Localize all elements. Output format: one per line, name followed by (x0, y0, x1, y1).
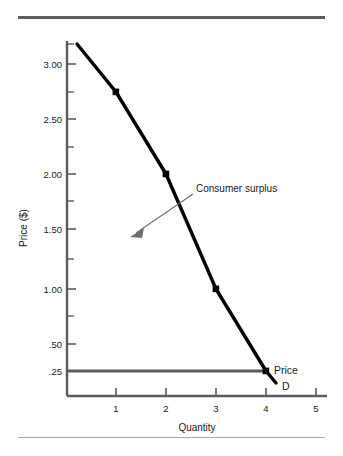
x-tick-label-2: 2 (163, 403, 168, 414)
y-tick-label-0.50: .50 (49, 339, 62, 350)
y-axis-tick-labels: 3.00 2.50 2.00 1.50 1.00 .50 .25 (44, 59, 63, 377)
x-axis-title: Quantity (178, 422, 215, 433)
y-tick-label-0.25: .25 (49, 366, 62, 377)
y-axis-title: Price ($) (18, 209, 29, 247)
figure-container: 3.00 2.50 2.00 1.50 1.00 .50 .25 Price (… (0, 0, 343, 456)
y-tick-label-1.00: 1.00 (44, 284, 63, 295)
data-point-q4 (263, 368, 270, 375)
data-point-q2 (163, 171, 170, 178)
y-axis-major-ticks (67, 64, 76, 371)
demand-curve-label: D (282, 380, 290, 392)
x-tick-label-4: 4 (263, 403, 268, 414)
y-tick-label-3.00: 3.00 (44, 59, 63, 70)
y-tick-label-1.50: 1.50 (44, 224, 63, 235)
demand-curve (77, 44, 276, 383)
x-tick-label-5: 5 (313, 403, 318, 414)
price-line-label: Price (274, 364, 298, 376)
x-tick-label-1: 1 (113, 403, 118, 414)
x-axis-tick-labels: 1 2 3 4 5 (113, 403, 318, 414)
consumer-surplus-annotation: Consumer surplus (130, 183, 277, 238)
consumer-surplus-arrowhead (130, 228, 144, 238)
data-point-q3 (213, 286, 220, 293)
y-tick-label-2.50: 2.50 (44, 114, 63, 125)
data-point-q1 (113, 89, 120, 96)
consumer-surplus-chart: 3.00 2.50 2.00 1.50 1.00 .50 .25 Price (… (0, 0, 343, 456)
x-tick-label-3: 3 (213, 403, 218, 414)
consumer-surplus-label: Consumer surplus (196, 183, 277, 194)
axes-group (67, 41, 327, 396)
y-tick-label-2.00: 2.00 (44, 169, 63, 180)
